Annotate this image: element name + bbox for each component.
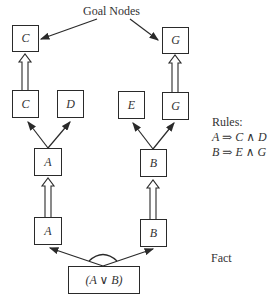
fact-node: (A ∨ B) xyxy=(68,266,140,294)
rule-arrow-a-d xyxy=(48,122,70,148)
node-e: E xyxy=(118,91,145,119)
goal-node-g: G xyxy=(162,27,189,54)
node-c: C xyxy=(12,90,39,118)
rule-arrow-a-c xyxy=(28,122,48,148)
goal-node-c: C xyxy=(12,25,39,52)
goal-arrow-left xyxy=(41,19,97,39)
and-connector-arc xyxy=(89,255,117,262)
goal-arrow-right xyxy=(130,19,158,40)
match-arrow-g xyxy=(169,55,181,92)
node-g: G xyxy=(162,92,189,120)
rule-2: B ⇒ E ∧ G xyxy=(212,145,266,160)
goal-nodes-label: Goal Nodes xyxy=(83,4,140,19)
rule-1: A ⇒ C ∧ D xyxy=(212,130,267,145)
rules-title: Rules: xyxy=(212,115,243,130)
node-a-rule: A xyxy=(34,148,62,176)
node-b-rule: B xyxy=(140,149,167,177)
fact-label: Fact xyxy=(211,251,232,266)
match-arrow-b xyxy=(147,180,159,219)
rule-arrow-b-g xyxy=(153,123,174,149)
node-a-fact: A xyxy=(34,217,62,245)
node-b-fact: B xyxy=(140,219,167,247)
match-arrow-c xyxy=(19,54,31,90)
match-arrow-a xyxy=(42,178,54,217)
rule-arrow-b-e xyxy=(133,123,153,149)
fact-arrow-b xyxy=(103,249,153,266)
node-d: D xyxy=(57,90,84,118)
